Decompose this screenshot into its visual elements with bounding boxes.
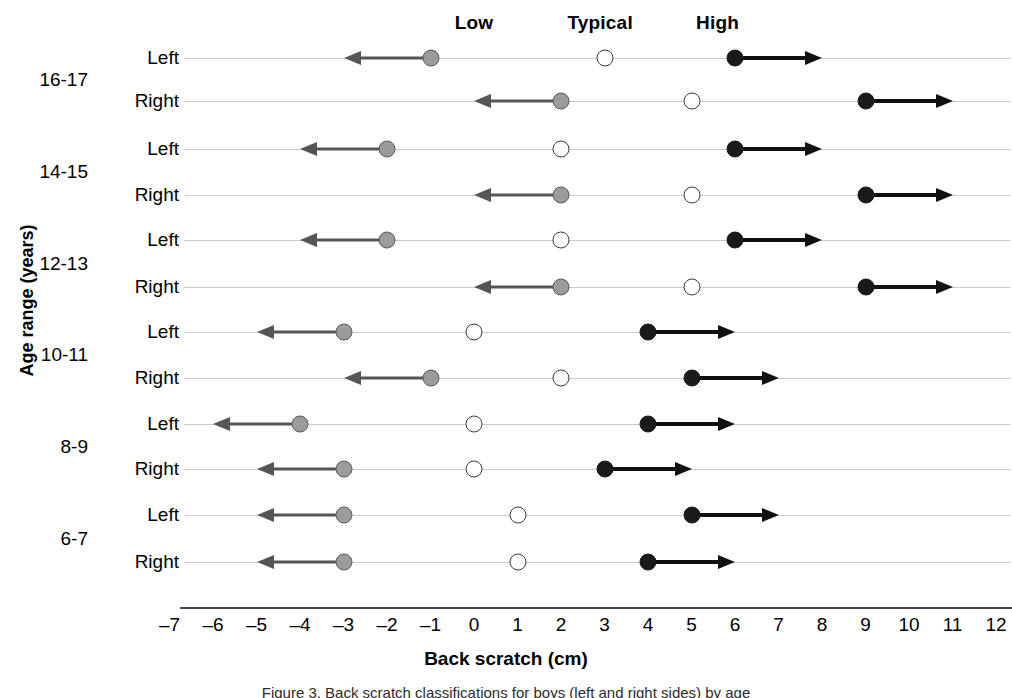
x-tick--3: –3 xyxy=(333,614,354,636)
row-label-14-15-right: Right xyxy=(135,184,179,206)
zone-header-low: Low xyxy=(455,12,494,34)
typical-marker xyxy=(683,187,700,204)
high-marker xyxy=(640,554,657,571)
high-marker xyxy=(596,461,613,478)
high-range-arrow xyxy=(866,90,953,112)
high-range-arrow xyxy=(735,47,822,69)
low-marker xyxy=(422,370,439,387)
age-group-label-8-9: 8-9 xyxy=(61,436,88,458)
age-group-label-6-7: 6-7 xyxy=(61,528,88,550)
row-gridline xyxy=(184,378,1010,379)
low-range-arrow xyxy=(474,184,561,206)
typical-marker xyxy=(553,232,570,249)
high-marker xyxy=(683,370,700,387)
y-axis-title: Age range (years) xyxy=(17,196,38,406)
x-tick--4: –4 xyxy=(289,614,310,636)
x-tick-4: 4 xyxy=(643,614,654,636)
high-marker xyxy=(727,141,744,158)
x-tick--6: –6 xyxy=(202,614,223,636)
x-tick-5: 5 xyxy=(686,614,697,636)
low-marker xyxy=(335,554,352,571)
row-label-16-17-right: Right xyxy=(135,90,179,112)
low-range-arrow xyxy=(344,367,431,389)
zone-header-typical: Typical xyxy=(567,12,632,34)
typical-marker xyxy=(466,461,483,478)
typical-marker xyxy=(509,507,526,524)
row-label-12-13-right: Right xyxy=(135,276,179,298)
x-tick--2: –2 xyxy=(376,614,397,636)
typical-marker xyxy=(683,93,700,110)
typical-marker xyxy=(553,370,570,387)
x-tick-1: 1 xyxy=(512,614,523,636)
low-range-arrow xyxy=(300,138,387,160)
high-range-arrow xyxy=(735,138,822,160)
high-marker xyxy=(683,507,700,524)
age-group-label-10-11: 10-11 xyxy=(41,344,88,366)
high-marker xyxy=(640,416,657,433)
low-marker xyxy=(335,507,352,524)
low-range-arrow xyxy=(344,47,431,69)
x-tick-2: 2 xyxy=(556,614,567,636)
chart-canvas: LowTypicalHigh Age range (years) 16-1714… xyxy=(0,0,1012,698)
typical-marker xyxy=(466,416,483,433)
row-label-14-15-left: Left xyxy=(147,138,179,160)
low-range-arrow xyxy=(257,458,344,480)
low-range-arrow xyxy=(474,276,561,298)
row-label-16-17-left: Left xyxy=(147,47,179,69)
high-marker xyxy=(727,232,744,249)
high-marker xyxy=(640,324,657,341)
low-range-arrow xyxy=(474,90,561,112)
typical-marker xyxy=(553,141,570,158)
low-marker xyxy=(379,232,396,249)
high-marker xyxy=(727,50,744,67)
low-marker xyxy=(292,416,309,433)
high-range-arrow xyxy=(648,321,735,343)
x-tick-12: 12 xyxy=(985,614,1006,636)
low-marker xyxy=(335,324,352,341)
row-label-8-9-right: Right xyxy=(135,458,179,480)
age-group-label-12-13: 12-13 xyxy=(39,253,88,275)
typical-marker xyxy=(683,279,700,296)
low-range-arrow xyxy=(213,413,300,435)
low-marker xyxy=(422,50,439,67)
low-marker xyxy=(379,141,396,158)
low-marker xyxy=(553,187,570,204)
high-range-arrow xyxy=(692,504,779,526)
high-marker xyxy=(857,279,874,296)
typical-marker xyxy=(509,554,526,571)
high-marker xyxy=(857,93,874,110)
low-marker xyxy=(553,279,570,296)
high-range-arrow xyxy=(866,276,953,298)
low-range-arrow xyxy=(257,504,344,526)
x-tick-6: 6 xyxy=(730,614,741,636)
x-tick--1: –1 xyxy=(420,614,441,636)
high-range-arrow xyxy=(866,184,953,206)
row-label-8-9-left: Left xyxy=(147,413,179,435)
low-marker xyxy=(335,461,352,478)
x-tick-3: 3 xyxy=(599,614,610,636)
high-range-arrow xyxy=(648,413,735,435)
figure-caption: Figure 3. Back scratch classifications f… xyxy=(0,684,1012,698)
low-range-arrow xyxy=(300,229,387,251)
x-tick-8: 8 xyxy=(817,614,828,636)
high-range-arrow xyxy=(648,551,735,573)
low-range-arrow xyxy=(257,551,344,573)
x-tick-10: 10 xyxy=(898,614,919,636)
zone-header-high: High xyxy=(696,12,739,34)
x-axis-title: Back scratch (cm) xyxy=(0,648,1012,670)
age-group-label-14-15: 14-15 xyxy=(39,161,88,183)
high-range-arrow xyxy=(692,367,779,389)
x-tick-0: 0 xyxy=(469,614,480,636)
row-label-10-11-right: Right xyxy=(135,367,179,389)
low-marker xyxy=(553,93,570,110)
high-range-arrow xyxy=(735,229,822,251)
typical-marker xyxy=(596,50,613,67)
row-label-6-7-left: Left xyxy=(147,504,179,526)
age-group-label-16-17: 16-17 xyxy=(39,69,88,91)
x-axis-line xyxy=(180,607,1012,609)
row-label-12-13-left: Left xyxy=(147,229,179,251)
high-marker xyxy=(857,187,874,204)
x-tick--7: –7 xyxy=(159,614,180,636)
row-label-10-11-left: Left xyxy=(147,321,179,343)
typical-marker xyxy=(466,324,483,341)
